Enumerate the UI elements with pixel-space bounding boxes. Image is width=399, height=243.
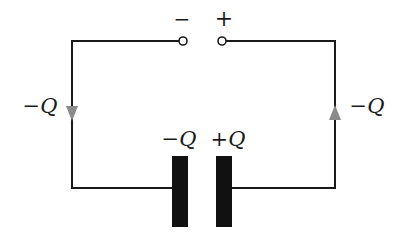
- arrow-up-icon: [329, 105, 341, 120]
- arrow-down-icon: [66, 106, 78, 121]
- right-wire: [226, 41, 335, 188]
- right-wire-charge-label: −Q: [350, 94, 385, 118]
- left-wire: [72, 41, 179, 188]
- negative-terminal-sign: −: [174, 7, 191, 31]
- positive-terminal: [218, 37, 226, 45]
- right-plate-charge-label: +Q: [211, 127, 246, 151]
- left-plate-charge-label: −Q: [162, 127, 197, 151]
- negative-terminal: [179, 37, 187, 45]
- capacitor-right-plate: [216, 156, 232, 227]
- circuit-diagram: − + −Q −Q −Q +Q: [0, 0, 399, 243]
- positive-terminal-sign: +: [215, 6, 233, 31]
- wires: [72, 41, 335, 188]
- capacitor-left-plate: [172, 156, 188, 227]
- left-wire-charge-label: −Q: [23, 94, 58, 118]
